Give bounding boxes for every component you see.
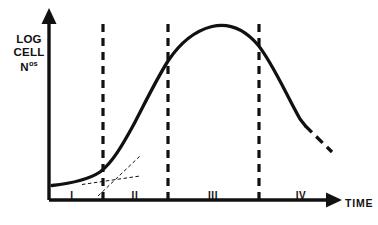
phase-label-lag: I xyxy=(57,190,87,201)
y-axis-arrowhead xyxy=(42,8,57,24)
y-axis-label: LOGCELLNos xyxy=(9,33,49,73)
y-axis-label-n: N xyxy=(20,61,29,73)
y-axis-label-line-3: Nos xyxy=(9,58,49,73)
phase-label-death: IV xyxy=(286,190,316,201)
x-axis-label: TIME xyxy=(345,197,373,209)
growth-curve-main xyxy=(52,26,306,186)
y-axis-label-line-2: CELL xyxy=(9,46,49,59)
phase-label-stationary: III xyxy=(198,190,228,201)
y-axis-label-line-1: LOG xyxy=(9,33,49,46)
phase-label-log: II xyxy=(120,190,150,201)
growth-curve-figure: LOGCELLNos TIME I II III IV xyxy=(0,0,378,225)
y-axis-label-superscript: os xyxy=(29,59,38,68)
growth-curve-broken-tail xyxy=(306,126,333,152)
x-axis-arrowhead xyxy=(326,193,342,208)
